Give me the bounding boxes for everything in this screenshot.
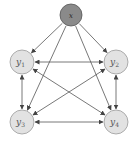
edge-x-y1 xyxy=(31,23,62,53)
edges-layer xyxy=(22,23,116,122)
graph-diagram: xy1y2y3y4 xyxy=(0,0,136,143)
node-x: x xyxy=(60,4,82,26)
edge-x-y2 xyxy=(79,24,107,53)
node-label-x: x xyxy=(69,12,73,20)
node-y3: y3 xyxy=(10,110,34,134)
nodes-layer: xy1y2y3y4 xyxy=(10,4,128,134)
node-y1: y1 xyxy=(10,50,34,74)
node-y2: y2 xyxy=(104,50,128,74)
node-y4: y4 xyxy=(104,110,128,134)
